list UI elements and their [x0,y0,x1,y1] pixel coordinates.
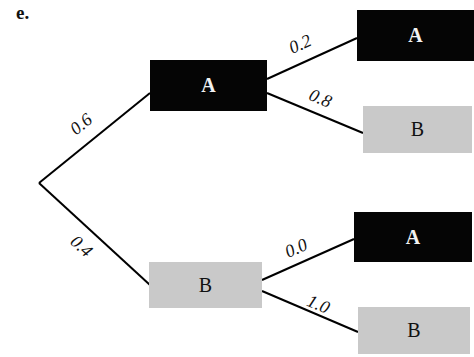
node-label: A [408,24,422,47]
edge-b-to-a [262,239,354,280]
node-level1-b: B [149,262,262,308]
node-label: B [407,319,420,342]
node-a-then-b: B [363,106,472,153]
node-b-then-b: B [358,307,470,354]
node-label: B [411,118,424,141]
node-label: A [201,74,215,97]
node-label: B [199,274,212,297]
node-level1-a: A [150,60,267,111]
node-label: A [406,226,420,249]
edge-root-to-a [39,93,150,183]
edge-root-to-b [39,183,150,285]
node-b-then-a: A [354,212,472,262]
node-a-then-a: A [357,10,474,61]
